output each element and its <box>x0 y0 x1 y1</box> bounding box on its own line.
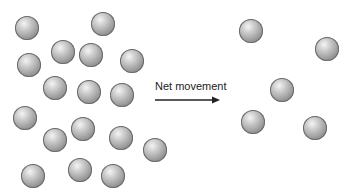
particle-sphere <box>71 117 95 141</box>
particle-sphere <box>13 106 37 130</box>
particle-sphere <box>91 12 115 36</box>
particle-sphere <box>17 53 41 77</box>
particle-sphere <box>21 164 45 188</box>
particle-sphere <box>77 80 101 104</box>
arrow-right-icon <box>155 96 220 104</box>
particle-sphere <box>303 116 327 140</box>
particle-sphere <box>315 37 339 61</box>
particle-sphere <box>51 40 75 64</box>
particle-sphere <box>15 16 39 40</box>
particle-sphere <box>101 164 125 188</box>
particle-sphere <box>79 43 103 67</box>
particle-sphere <box>241 110 265 134</box>
net-movement-label: Net movement <box>155 80 227 92</box>
particle-sphere <box>120 49 144 73</box>
particle-sphere <box>43 128 67 152</box>
particle-sphere <box>109 126 133 150</box>
particle-sphere <box>239 19 263 43</box>
particle-sphere <box>143 138 167 162</box>
particle-sphere <box>68 158 92 182</box>
particle-sphere <box>270 78 294 102</box>
particle-sphere <box>43 76 67 100</box>
particle-sphere <box>110 83 134 107</box>
